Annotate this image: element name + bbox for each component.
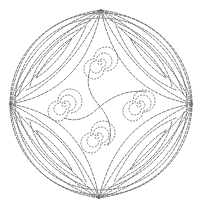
quilting-stencil — [0, 0, 204, 212]
quadrant-bottom-right — [99, 104, 192, 198]
quadrant-top-left — [10, 10, 101, 104]
outer-circle-inner — [15, 18, 187, 190]
center-s-curve-horizontal — [64, 91, 146, 119]
center-s-curve-vertical — [88, 70, 110, 146]
spiral-top — [84, 47, 118, 79]
spiral-left — [48, 89, 82, 121]
spiral-right — [123, 90, 155, 121]
